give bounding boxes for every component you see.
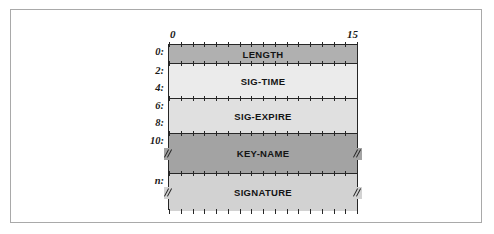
field-label: SIGNATURE (234, 187, 292, 198)
bit-tick (322, 209, 323, 214)
bit-tick (357, 171, 358, 176)
bit-tick (216, 42, 217, 47)
field-row: SIGNATURE (169, 174, 357, 211)
truncation-break-icon (353, 187, 362, 199)
bit-tick (357, 61, 358, 66)
bit-tick (251, 42, 252, 47)
truncation-break-icon (353, 148, 362, 160)
offset-label: n: (155, 175, 164, 186)
bit-tick (240, 42, 241, 47)
offset-label: 8: (155, 117, 164, 128)
bit-tick (181, 42, 182, 47)
bit-tick (204, 209, 205, 214)
bit-tick (357, 96, 358, 101)
packet-layout-diagram: 0 15 0:2:4:6:8:10:n: LENGTHSIG-TIMESIG-E… (168, 28, 358, 210)
bit-tick (298, 42, 299, 47)
field-row: SIG-EXPIRE (169, 99, 357, 134)
bit-tick (345, 209, 346, 214)
offset-label: 10: (150, 135, 164, 146)
bit-tick (181, 209, 182, 214)
offset-label: 2: (155, 65, 164, 76)
bit-tick (240, 209, 241, 214)
bit-tick (334, 209, 335, 214)
bit-tick (204, 42, 205, 47)
field-label: SIG-EXPIRE (234, 111, 291, 122)
truncation-break-icon (164, 187, 173, 199)
offset-label: 0: (155, 46, 164, 57)
bit-tick (193, 209, 194, 214)
field-row: KEY-NAME (169, 134, 357, 174)
bit-tick (275, 209, 276, 214)
bit-ruler-end-label: 15 (347, 28, 358, 40)
bit-tick (287, 209, 288, 214)
bit-tick (251, 209, 252, 214)
bit-tick (275, 42, 276, 47)
figure-frame: 0 15 0:2:4:6:8:10:n: LENGTHSIG-TIMESIG-E… (10, 9, 482, 223)
bit-tick (298, 209, 299, 214)
bit-tick (334, 42, 335, 47)
bit-tick (322, 42, 323, 47)
field-row: LENGTH (169, 45, 357, 64)
bit-tick (345, 42, 346, 47)
bit-tick (216, 209, 217, 214)
field-row: SIG-TIME (169, 64, 357, 99)
bit-tick (263, 42, 264, 47)
field-label: LENGTH (243, 49, 284, 60)
bit-tick (193, 42, 194, 47)
bit-tick (310, 209, 311, 214)
bit-tick (357, 131, 358, 136)
offset-label: 4: (155, 82, 164, 93)
bit-tick-rule (169, 209, 357, 214)
bit-tick (263, 209, 264, 214)
bit-tick (310, 42, 311, 47)
truncation-break-icon (164, 148, 173, 160)
bit-tick-rule (169, 42, 357, 47)
bit-tick (357, 209, 358, 214)
bit-ruler-start-label: 0 (170, 28, 176, 40)
bit-tick (169, 42, 170, 47)
bit-tick (357, 42, 358, 47)
bit-tick (228, 209, 229, 214)
bit-tick (169, 209, 170, 214)
bit-tick (228, 42, 229, 47)
field-label: SIG-TIME (241, 76, 286, 87)
field-label: KEY-NAME (237, 148, 290, 159)
field-stack: LENGTHSIG-TIMESIG-EXPIREKEY-NAMESIGNATUR… (168, 44, 358, 210)
offset-label: 6: (155, 100, 164, 111)
bit-tick (287, 42, 288, 47)
offset-gutter: 0:2:4:6:8:10:n: (140, 44, 166, 210)
